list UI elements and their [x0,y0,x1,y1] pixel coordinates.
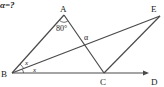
angle-arc-b-upper [20,64,24,69]
point-label-e: E [151,4,157,14]
point-label-d: D [151,77,158,87]
angle-arc-a [60,21,69,23]
angle-label-x-upper: x [24,59,29,67]
point-label-b: B [1,69,7,79]
geometry-diagram: α=? A 80° α B x x C D E [0,0,164,87]
arrow-head-icon [143,71,149,76]
point-label-a: A [60,4,67,14]
angle-label-a: 80° [56,24,67,33]
segment-ce [104,16,160,73]
segment-ac [64,15,104,73]
segment-be [12,16,160,73]
angle-label-alpha: α [84,33,89,42]
point-label-c: C [100,77,106,87]
question-text: α=? [0,0,15,10]
